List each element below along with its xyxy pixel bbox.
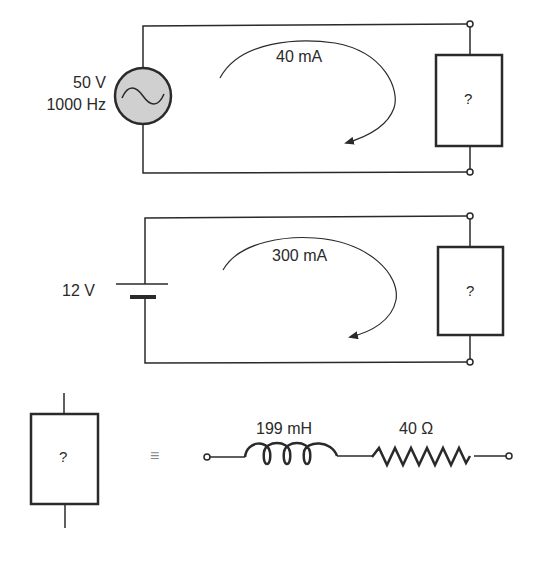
equivalence-diagram bbox=[31, 393, 512, 528]
equiv-terminal-left bbox=[204, 454, 210, 460]
dc-voltage-label: 12 V bbox=[62, 280, 95, 302]
ac-terminal-top bbox=[467, 21, 473, 27]
equiv-terminal-right bbox=[506, 453, 512, 459]
ac-terminal-bottom bbox=[467, 169, 473, 175]
ac-current-label: 40 mA bbox=[276, 48, 322, 66]
resistor-icon bbox=[372, 448, 470, 465]
dc-current-label: 300 mA bbox=[272, 247, 327, 265]
dc-load-question-mark: ? bbox=[466, 282, 474, 299]
inductor-icon bbox=[245, 443, 337, 464]
inductor-label: 199 mH bbox=[256, 420, 312, 438]
ac-source-labels: 50 V 1000 Hz bbox=[18, 72, 106, 116]
equivalence-symbol: ≡ bbox=[150, 447, 159, 465]
ac-frequency-label: 1000 Hz bbox=[18, 94, 106, 116]
ac-load-question-mark: ? bbox=[464, 90, 472, 107]
ac-circuit bbox=[115, 21, 502, 175]
ac-voltage-label: 50 V bbox=[18, 72, 106, 94]
resistor-label: 40 Ω bbox=[399, 420, 433, 438]
dc-terminal-bottom bbox=[467, 359, 473, 365]
dc-bottom-wire bbox=[145, 297, 467, 363]
ac-bottom-wire bbox=[143, 124, 467, 173]
dc-circuit bbox=[116, 213, 503, 365]
block-question-mark: ? bbox=[59, 448, 67, 465]
dc-terminal-top bbox=[467, 213, 473, 219]
